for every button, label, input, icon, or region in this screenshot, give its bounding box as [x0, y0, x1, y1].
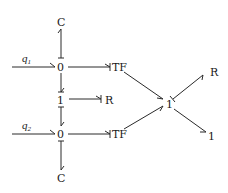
bond-one-right-to-r-right	[170, 75, 203, 102]
bond-zero-top-to-c-top	[58, 29, 64, 58]
c-bot-label: C	[57, 172, 65, 185]
bond-one-mid-to-zero-bot	[58, 107, 64, 126]
bond-zero-bot-to-tf-bot	[68, 130, 110, 138]
tf-bot-label: TF	[112, 128, 127, 141]
one-junction-right: 1	[166, 98, 173, 111]
bond-q1-to-zero-top	[12, 63, 55, 67]
bond-zero-bot-to-c-bot	[58, 141, 64, 170]
bond-q2-to-zero-bot	[12, 130, 55, 134]
bond-one-mid-to-r-mid	[69, 95, 101, 103]
q2-label: q2	[22, 119, 32, 133]
bond-graph-diagram: q1 0 C TF 1 R q2 0	[0, 0, 228, 193]
bond-zero-top-to-one-mid	[58, 73, 64, 92]
one-junction-mid: 1	[57, 94, 64, 107]
zero-junction-top: 0	[57, 61, 64, 74]
bond-tf-top-to-one-right	[124, 72, 163, 99]
r-mid-label: R	[105, 94, 114, 107]
r-right-label: R	[210, 66, 219, 79]
one-out-label: 1	[208, 130, 215, 143]
c-top-label: C	[57, 16, 65, 29]
bond-zero-top-to-tf-top	[68, 63, 110, 71]
q1-label: q1	[22, 52, 31, 66]
tf-top-label: TF	[112, 61, 127, 74]
bond-tf-bot-to-one-right	[124, 106, 163, 129]
bond-one-right-to-one-out	[174, 109, 206, 132]
zero-junction-bot: 0	[57, 128, 64, 141]
